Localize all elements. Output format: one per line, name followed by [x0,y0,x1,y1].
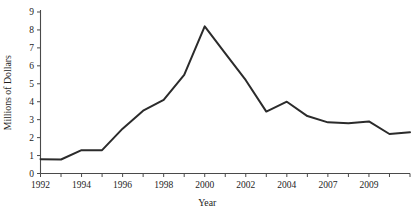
x-axis-tick-labels: 199219941996199820002002200420072009 [31,180,379,190]
y-tick-label: 0 [29,169,34,179]
x-tick-label: 2009 [359,180,378,190]
x-tick-label: 2004 [277,180,296,190]
y-axis-title: Millions of Dollars [2,55,13,130]
y-tick-label: 1 [29,151,34,161]
data-series-line [41,26,411,159]
y-tick-label: 3 [29,115,34,125]
x-tick-label: 2007 [318,180,337,190]
y-tick-label: 6 [29,61,34,71]
x-tick-label: 1992 [31,180,50,190]
x-tick-label: 1996 [113,180,132,190]
x-axis-title: Year [198,197,217,208]
y-tick-label: 9 [29,7,34,17]
x-tick-label: 1998 [154,180,173,190]
y-tick-label: 7 [29,43,34,53]
y-tick-label: 4 [29,97,34,107]
x-tick-label: 2002 [236,180,255,190]
y-tick-label: 8 [29,25,34,35]
line-chart: 0123456789 19921994199619982000200220042… [0,0,418,213]
y-tick-label: 5 [29,79,34,89]
y-tick-label: 2 [29,133,34,143]
x-tick-label: 1994 [72,180,91,190]
y-axis-tick-labels: 0123456789 [29,7,34,179]
chart-container: 0123456789 19921994199619982000200220042… [0,0,418,213]
x-tick-label: 2000 [195,180,214,190]
